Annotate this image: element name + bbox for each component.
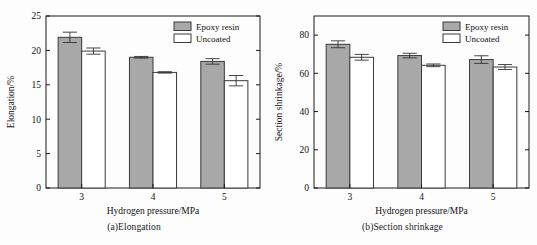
legend-label-uncoated: Uncoated: [196, 34, 231, 44]
bar-uncoated[interactable]: [82, 51, 106, 188]
bar-group: [350, 54, 374, 188]
y-tick-label: 10: [32, 115, 42, 125]
bar-group: [224, 76, 248, 188]
bar-group: [129, 56, 153, 188]
section-shrinkage-bar-chart: 020406080345Hydrogen pressure/MPaSection…: [268, 0, 537, 222]
x-tick-label: 5: [222, 192, 227, 202]
x-tick-label: 4: [151, 192, 156, 202]
bar-group: [201, 59, 225, 188]
y-tick-label: 80: [300, 30, 310, 40]
bar-group: [153, 72, 177, 188]
bar-group: [493, 65, 517, 188]
y-tick-label: 5: [36, 149, 41, 159]
bar-group: [326, 41, 350, 188]
legend-swatch-uncoated: [443, 34, 460, 43]
panel-a-caption: (a)Elongation: [0, 222, 268, 232]
legend-label-uncoated: Uncoated: [465, 34, 500, 44]
bar-group: [422, 64, 446, 188]
bar-uncoated[interactable]: [350, 57, 374, 188]
y-tick-label: 0: [36, 183, 41, 193]
bar-uncoated[interactable]: [422, 65, 446, 188]
legend-swatch-epoxy-resin: [443, 22, 460, 31]
x-axis-title: Hydrogen pressure/MPa: [107, 206, 200, 216]
chart-panel-elongation: 0510152025345Hydrogen pressure/MPaElonga…: [0, 0, 268, 245]
elongation-bar-chart: 0510152025345Hydrogen pressure/MPaElonga…: [0, 0, 268, 222]
bar-epoxy-resin[interactable]: [326, 44, 350, 188]
y-tick-label: 25: [32, 11, 42, 21]
chart-panel-section-shrinkage: 020406080345Hydrogen pressure/MPaSection…: [268, 0, 536, 245]
bar-epoxy-resin[interactable]: [470, 60, 494, 188]
x-tick-label: 3: [347, 192, 352, 202]
panel-b-caption: (b)Section shrinkage: [268, 222, 537, 232]
x-axis-title: Hydrogen pressure/MPa: [375, 206, 468, 216]
figure-container: 0510152025345Hydrogen pressure/MPaElonga…: [0, 0, 537, 245]
bar-epoxy-resin[interactable]: [201, 61, 225, 188]
y-axis-title: Section shrinkage/%: [274, 63, 284, 141]
bar-epoxy-resin[interactable]: [129, 57, 153, 188]
y-tick-label: 20: [32, 46, 42, 56]
bar-group: [470, 56, 494, 188]
x-tick-label: 3: [79, 192, 84, 202]
legend-swatch-epoxy-resin: [174, 22, 191, 31]
bar-epoxy-resin[interactable]: [398, 56, 422, 188]
bar-uncoated[interactable]: [224, 81, 248, 188]
legend-label-epoxy-resin: Epoxy resin: [465, 22, 509, 32]
x-tick-label: 5: [491, 192, 496, 202]
bar-uncoated[interactable]: [493, 67, 517, 188]
bar-group: [58, 32, 82, 188]
bar-group: [82, 48, 106, 188]
legend-label-epoxy-resin: Epoxy resin: [196, 22, 240, 32]
bar-epoxy-resin[interactable]: [58, 37, 82, 188]
y-tick-label: 0: [304, 183, 309, 193]
y-tick-label: 40: [300, 107, 310, 117]
x-tick-label: 4: [419, 192, 424, 202]
y-tick-label: 20: [300, 145, 310, 155]
legend-swatch-uncoated: [174, 34, 191, 43]
bar-uncoated[interactable]: [153, 72, 177, 188]
y-axis-title: Elongation/%: [6, 76, 16, 128]
bar-group: [398, 53, 422, 188]
y-tick-label: 15: [32, 80, 42, 90]
y-tick-label: 60: [300, 69, 310, 79]
